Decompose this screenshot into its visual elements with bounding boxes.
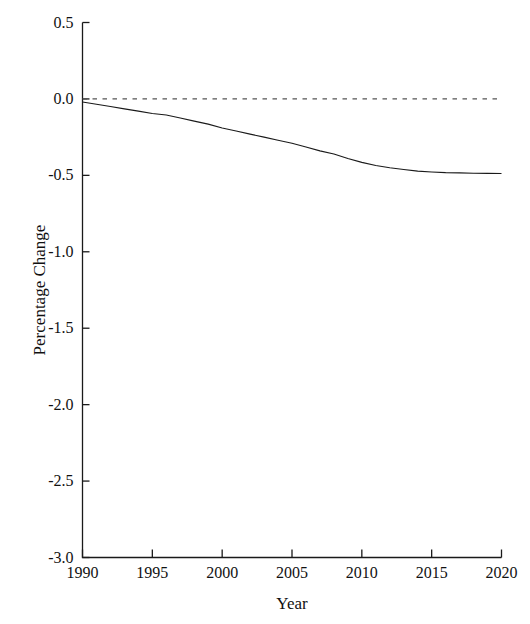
y-tick-label: 0.5 <box>54 15 74 31</box>
x-tick-label: 2020 <box>486 565 518 581</box>
axis-lines <box>83 23 502 558</box>
y-tick-label: -2.0 <box>48 397 73 413</box>
y-tick-label: -1.0 <box>48 244 73 260</box>
series-percentage-change <box>83 102 502 174</box>
x-axis-title: Year <box>276 594 307 614</box>
x-tick-label: 2000 <box>206 565 238 581</box>
plot-canvas <box>0 0 530 624</box>
tick-marks <box>83 23 502 558</box>
chart-figure: 0.50.0-0.5-1.0-1.5-2.0-2.5-3.0 199019952… <box>0 0 530 624</box>
y-tick-label: 0.0 <box>54 91 74 107</box>
x-tick-label: 2005 <box>276 565 308 581</box>
data-series-layer <box>83 99 502 174</box>
y-tick-label: -0.5 <box>48 167 73 183</box>
y-axis-title: Percentage Change <box>30 225 50 356</box>
x-tick-label: 1990 <box>67 565 99 581</box>
x-tick-label: 1995 <box>136 565 168 581</box>
x-tick-label: 2010 <box>346 565 378 581</box>
x-tick-label: 2015 <box>416 565 448 581</box>
y-tick-label: -2.5 <box>48 473 73 489</box>
y-tick-label: -1.5 <box>48 320 73 336</box>
